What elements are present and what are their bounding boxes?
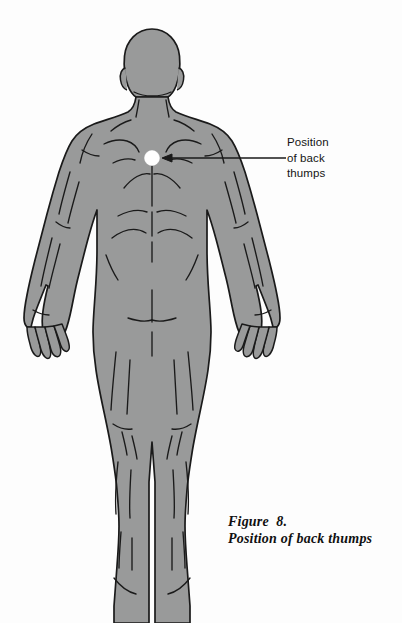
head-shape	[124, 29, 180, 97]
figure-page: Position of back thumps Figure 8. Positi…	[0, 0, 402, 623]
back-thumps-marker-dot	[145, 151, 160, 166]
callout-label-text: Position of back thumps	[287, 135, 392, 182]
caption-line-number: Figure 8.	[228, 513, 372, 530]
hand-right	[235, 324, 277, 359]
caption-line-title: Position of back thumps	[228, 530, 372, 547]
figure-caption: Figure 8. Position of back thumps	[228, 513, 372, 547]
hand-left	[27, 324, 69, 359]
